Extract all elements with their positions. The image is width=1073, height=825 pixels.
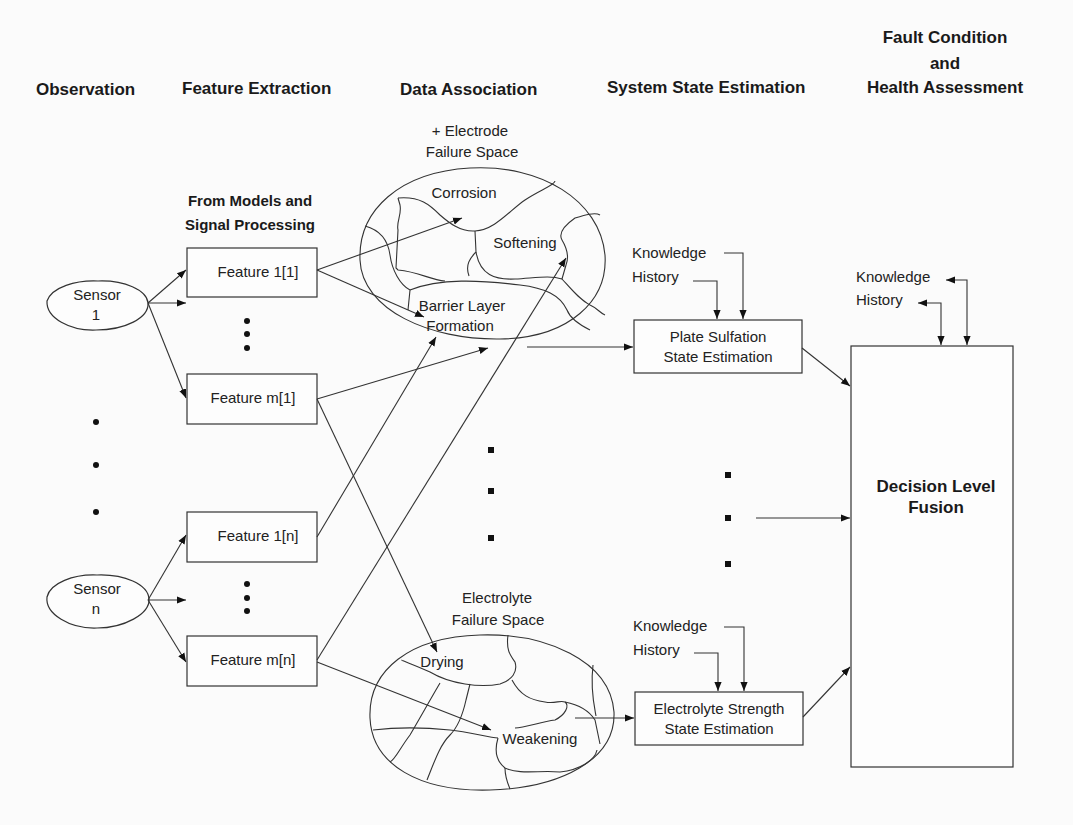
arrow-estimator2-fusion: [803, 667, 850, 717]
sensor-1-index: 1: [92, 306, 100, 323]
estimator-plate-sulfation[interactable]: Plate Sulfation State Estimation: [634, 320, 802, 373]
arrow-feature11-barrier: [317, 270, 424, 317]
region-softening: Softening: [493, 234, 556, 251]
arrow-history-estimator1: [693, 281, 717, 319]
stage-feature-extraction: Feature Extraction: [182, 79, 331, 98]
stage-observation: Observation: [36, 80, 135, 99]
sensor-1-label: Sensor: [73, 286, 121, 303]
decision-level-fusion-box[interactable]: Decision Level Fusion: [851, 346, 1013, 767]
arrow-knowledge-estimator1: [724, 253, 743, 319]
sensor-1[interactable]: Sensor 1: [47, 281, 148, 330]
arrow-featuremn-weakening: [317, 662, 491, 730]
ellipsis-dot: [244, 581, 250, 587]
feature-label: Feature m[1]: [210, 389, 295, 406]
arrow-sensorn-featuremn: [148, 600, 186, 662]
ellipsis-dot: [244, 608, 250, 614]
estimator-label-line1: Electrolyte Strength: [654, 700, 785, 717]
feature-box-1-n[interactable]: Feature 1[n]: [187, 512, 317, 562]
region-drying: Drying: [420, 653, 463, 670]
feature-label: Feature 1[1]: [218, 263, 299, 280]
ellipsis-dot: [725, 472, 731, 478]
stage-system-state-estimation: System State Estimation: [607, 78, 805, 97]
feature-box-m-1[interactable]: Feature m[1]: [187, 374, 317, 424]
estimator-label-line2: State Estimation: [663, 348, 772, 365]
ellipsis-dot: [488, 488, 494, 494]
estimator2-history: History: [633, 641, 680, 658]
sensor-n-label: Sensor: [73, 580, 121, 597]
feature-label: Feature m[n]: [210, 651, 295, 668]
stage-and: and: [930, 54, 960, 73]
ellipsis-dot: [488, 447, 494, 453]
fusion-label-line1: Decision Level: [876, 477, 995, 496]
estimator1-history: History: [632, 268, 679, 285]
ellipsis-dot: [244, 331, 250, 337]
stage-data-association: Data Association: [400, 80, 537, 99]
feature-source-line1: From Models and: [188, 192, 312, 209]
electrode-space-title-1: + Electrode: [432, 122, 508, 139]
estimator1-knowledge: Knowledge: [632, 244, 706, 261]
fusion-knowledge: Knowledge: [856, 268, 930, 285]
stage-fault-condition: Fault Condition: [883, 28, 1008, 47]
estimator-label-line1: Plate Sulfation: [670, 328, 767, 345]
estimator-label-line2: State Estimation: [664, 720, 773, 737]
arrow-knowledge-estimator2: [724, 627, 744, 691]
estimator-electrolyte-strength[interactable]: Electrolyte Strength State Estimation: [635, 692, 803, 745]
feature-box-m-n[interactable]: Feature m[n]: [187, 636, 317, 686]
region-corrosion: Corrosion: [431, 184, 496, 201]
arrow-feature11-corrosion: [317, 218, 462, 270]
region-barrier-layer: Barrier Layer: [419, 297, 506, 314]
fusion-label-line2: Fusion: [908, 498, 964, 517]
arrow-featurem1-barrier: [317, 348, 488, 399]
sensor-n[interactable]: Sensor n: [47, 575, 149, 628]
feature-source-line2: Signal Processing: [185, 216, 315, 233]
stage-health-assessment: Health Assessment: [867, 78, 1024, 97]
ellipsis-dot: [244, 595, 250, 601]
ellipsis-dot: [244, 318, 250, 324]
ellipsis-dot: [725, 561, 731, 567]
arrow-estimator1-fusion: [802, 348, 850, 386]
ellipsis-dot: [725, 515, 731, 521]
estimator2-knowledge: Knowledge: [633, 617, 707, 634]
sensor-n-index: n: [92, 600, 100, 617]
ellipsis-dot: [244, 345, 250, 351]
electrolyte-space-title-1: Electrolyte: [462, 589, 532, 606]
fault-diagnosis-diagram: Observation Feature Extraction Data Asso…: [0, 0, 1073, 825]
electrolyte-space-title-2: Failure Space: [452, 611, 545, 628]
arrow-sensor1-featurem1: [148, 303, 186, 398]
ellipsis-dot: [93, 462, 99, 468]
electrode-space-title-2: Failure Space: [426, 143, 519, 160]
arrow-fusion-history: [918, 303, 941, 345]
arrow-history-estimator2: [694, 653, 718, 691]
feature-box-1-1[interactable]: Feature 1[1]: [187, 248, 317, 297]
ellipsis-dot: [93, 419, 99, 425]
fusion-history: History: [856, 291, 903, 308]
ellipsis-dot: [488, 535, 494, 541]
feature-label: Feature 1[n]: [218, 527, 299, 544]
region-formation: Formation: [426, 317, 494, 334]
arrow-sensorn-feature1n: [148, 535, 186, 600]
electrolyte-failure-space: [370, 635, 614, 790]
ellipsis-dot: [93, 509, 99, 515]
region-weakening: Weakening: [503, 730, 578, 747]
arrow-sensor1-feature11: [148, 270, 186, 303]
arrow-fusion-knowledge: [946, 280, 967, 345]
